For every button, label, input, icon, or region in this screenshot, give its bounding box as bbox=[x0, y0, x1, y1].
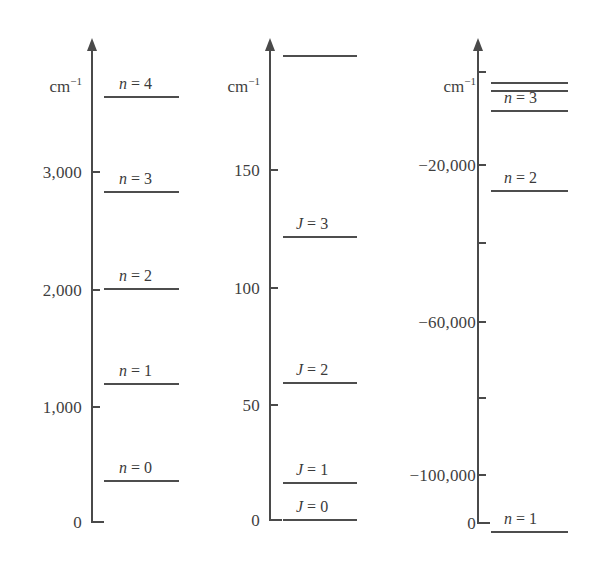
level-line-j1 bbox=[283, 482, 357, 484]
level-value: 3 bbox=[144, 170, 152, 187]
level-line-j4 bbox=[283, 55, 357, 57]
panel-electronic: cm−1 −20,000 −60,000 −100,000 0 n = 3 n … bbox=[390, 0, 595, 567]
axis-spine bbox=[91, 50, 93, 523]
level-line-n0 bbox=[104, 480, 179, 482]
level-label-n2: n = 2 bbox=[119, 268, 152, 284]
level-label-n0: n = 0 bbox=[119, 460, 152, 476]
unit-label-base: cm bbox=[444, 77, 465, 96]
tick-label-3000: 3,000 bbox=[43, 164, 82, 181]
axis-origin-foot bbox=[91, 521, 104, 523]
level-value: 2 bbox=[320, 361, 328, 378]
level-symbol: J bbox=[296, 361, 303, 378]
tick-label-0: 0 bbox=[251, 512, 260, 529]
level-line-n4 bbox=[104, 96, 179, 98]
level-symbol: J bbox=[296, 498, 303, 515]
level-line-n5 bbox=[491, 82, 568, 84]
level-value: 1 bbox=[144, 362, 152, 379]
level-label-n2: n = 2 bbox=[504, 170, 537, 186]
unit-label: cm−1 bbox=[50, 78, 83, 95]
axis-origin-foot bbox=[269, 519, 282, 521]
unit-label-exponent: −1 bbox=[248, 75, 260, 87]
level-line-n3 bbox=[491, 110, 568, 112]
unit-label-base: cm bbox=[50, 77, 71, 96]
level-value: 3 bbox=[529, 89, 537, 106]
panel-vibrational: cm−1 3,000 2,000 1,000 0 n = 4 n = 3 n =… bbox=[0, 0, 195, 567]
tick-150 bbox=[269, 169, 278, 171]
level-value: 1 bbox=[529, 510, 537, 527]
tick-top-unlabeled bbox=[477, 71, 486, 73]
level-symbol: J bbox=[296, 461, 303, 478]
axis-spine bbox=[269, 50, 271, 521]
tick-2000 bbox=[91, 289, 100, 291]
level-value: 0 bbox=[320, 498, 328, 515]
unit-label-base: cm bbox=[228, 77, 249, 96]
level-label-n1: n = 1 bbox=[504, 511, 537, 527]
tick-label-150: 150 bbox=[234, 162, 260, 179]
tick-50 bbox=[269, 404, 278, 406]
level-symbol: n bbox=[119, 170, 127, 187]
level-line-j2 bbox=[283, 382, 357, 384]
level-label-n3: n = 3 bbox=[119, 171, 152, 187]
level-value: 2 bbox=[529, 169, 537, 186]
unit-label: cm−1 bbox=[228, 78, 261, 95]
tick-100 bbox=[269, 287, 278, 289]
tick-minus80000-unlabeled bbox=[477, 397, 486, 399]
panel-rotational: cm−1 150 100 50 0 J = 3 J = 2 J = 1 J = … bbox=[195, 0, 390, 567]
level-symbol: n bbox=[119, 75, 127, 92]
level-line-n2 bbox=[491, 190, 568, 192]
level-line-n3 bbox=[104, 191, 179, 193]
tick-1000 bbox=[91, 406, 100, 408]
tick-label-2000: 2,000 bbox=[43, 282, 82, 299]
tick-label-minus20000: −20,000 bbox=[418, 157, 476, 174]
level-line-j3 bbox=[283, 236, 357, 238]
level-label-j3: J = 3 bbox=[296, 216, 328, 232]
level-value: 4 bbox=[144, 75, 152, 92]
tick-minus100000 bbox=[477, 474, 486, 476]
level-symbol: n bbox=[119, 362, 127, 379]
tick-minus20000 bbox=[477, 164, 486, 166]
level-symbol: n bbox=[119, 267, 127, 284]
tick-label-50: 50 bbox=[243, 397, 260, 414]
tick-minus40000-unlabeled bbox=[477, 242, 486, 244]
level-line-n1 bbox=[491, 531, 568, 533]
level-line-n1 bbox=[104, 383, 179, 385]
tick-3000 bbox=[91, 171, 100, 173]
tick-label-1000: 1,000 bbox=[43, 399, 82, 416]
tick-label-100: 100 bbox=[234, 280, 260, 297]
level-label-n4: n = 4 bbox=[119, 76, 152, 92]
level-symbol: n bbox=[504, 510, 512, 527]
level-symbol: n bbox=[504, 89, 512, 106]
level-symbol: J bbox=[296, 215, 303, 232]
level-label-n3: n = 3 bbox=[504, 90, 537, 106]
level-value: 1 bbox=[320, 461, 328, 478]
level-line-n2 bbox=[104, 288, 179, 290]
tick-label-0: 0 bbox=[467, 515, 476, 532]
axis-origin-foot bbox=[477, 522, 490, 524]
unit-label: cm−1 bbox=[444, 78, 477, 95]
tick-label-0: 0 bbox=[73, 514, 82, 531]
level-label-j2: J = 2 bbox=[296, 362, 328, 378]
level-value: 3 bbox=[320, 215, 328, 232]
level-line-j0 bbox=[283, 519, 357, 521]
level-value: 2 bbox=[144, 267, 152, 284]
unit-label-exponent: −1 bbox=[464, 75, 476, 87]
axis-spine bbox=[477, 50, 479, 524]
energy-level-figure: cm−1 3,000 2,000 1,000 0 n = 4 n = 3 n =… bbox=[0, 0, 595, 567]
tick-label-minus60000: −60,000 bbox=[418, 314, 476, 331]
level-label-n1: n = 1 bbox=[119, 363, 152, 379]
level-label-j0: J = 0 bbox=[296, 499, 328, 515]
level-symbol: n bbox=[119, 459, 127, 476]
level-symbol: n bbox=[504, 169, 512, 186]
level-label-j1: J = 1 bbox=[296, 462, 328, 478]
unit-label-exponent: −1 bbox=[70, 75, 82, 87]
level-value: 0 bbox=[144, 459, 152, 476]
tick-minus60000 bbox=[477, 321, 486, 323]
tick-label-minus100000: −100,000 bbox=[410, 467, 476, 484]
